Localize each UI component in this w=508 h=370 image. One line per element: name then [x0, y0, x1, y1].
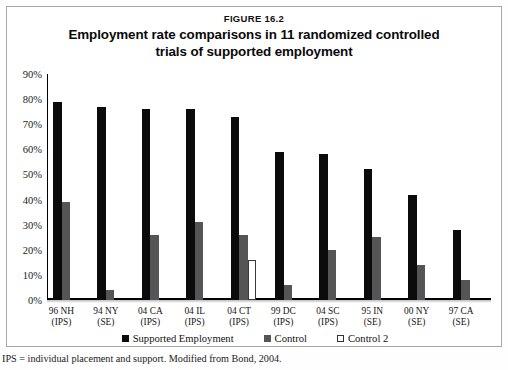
x-axis-label-line-2: (SE) [84, 317, 128, 328]
x-axis-label-line-2: (IPS) [39, 317, 83, 328]
y-tick-label: 40% [23, 194, 42, 205]
figure-number: FIGURE 16.2 [7, 13, 501, 24]
legend-swatch-ctrl [264, 335, 271, 342]
x-axis-label-line-2: (IPS) [173, 317, 217, 328]
plot-area: 90%80%70%60%50%40%30%20%10%0% [47, 74, 491, 300]
x-axis-label-line-1: 04 CT [227, 306, 251, 316]
bar-control [62, 202, 71, 300]
x-axis-label-line-1: 96 NH [49, 306, 74, 316]
y-tick-label: 50% [23, 169, 42, 180]
x-axis-label-line-2: (IPS) [217, 317, 261, 328]
chart-legend: Supported EmploymentControlControl 2 [7, 333, 503, 344]
y-tick-label: 80% [23, 94, 42, 105]
x-axis-label: 04 SC(IPS) [306, 306, 350, 328]
x-axis-label-line-2: (IPS) [261, 317, 305, 328]
x-axis-label: 04 CT(IPS) [217, 306, 261, 328]
x-axis-label-line-1: 94 NY [93, 306, 118, 316]
bar-supported-employment [275, 152, 284, 300]
x-axis-label: 95 IN(SE) [350, 306, 394, 328]
x-axis-label-line-1: 04 IL [184, 306, 205, 316]
bar-group [408, 74, 452, 300]
x-axis-label: 04 CA(IPS) [128, 306, 172, 328]
legend-item: Control [264, 333, 307, 344]
x-axis-label: 99 DC(IPS) [261, 306, 305, 328]
figure-title-line-2: trials of supported employment [7, 44, 501, 61]
bar-control [106, 290, 115, 300]
bar-control [150, 235, 159, 300]
bar-supported-employment [186, 109, 195, 300]
legend-swatch-se [122, 335, 129, 342]
x-axis-label-line-2: (SE) [395, 317, 439, 328]
bar-control-2 [248, 260, 257, 300]
bar-control [195, 222, 204, 300]
figure-title-line-1: Employment rate comparisons in 11 random… [7, 27, 501, 44]
x-axis-label-line-2: (IPS) [128, 317, 172, 328]
y-tick-label: 30% [23, 219, 42, 230]
bar-group [97, 74, 141, 300]
bar-supported-employment [319, 154, 328, 300]
legend-label: Control 2 [348, 333, 388, 344]
y-tick-label: 20% [23, 244, 42, 255]
bar-supported-employment [453, 230, 462, 300]
y-tick-label: 10% [23, 269, 42, 280]
y-tick-label: 90% [23, 69, 42, 80]
bar-group [275, 74, 319, 300]
x-axis-label-line-1: 00 NY [404, 306, 429, 316]
x-axis-label-line-2: (SE) [439, 317, 483, 328]
bar-group [142, 74, 186, 300]
figure-screenshot: FIGURE 16.2 Employment rate comparisons … [0, 0, 508, 370]
bar-group [53, 74, 97, 300]
bar-supported-employment [97, 107, 106, 300]
figure-title: Employment rate comparisons in 11 random… [7, 27, 501, 60]
x-axis-label: 97 CA(SE) [439, 306, 483, 328]
x-axis-label-line-2: (IPS) [306, 317, 350, 328]
x-axis-label-line-1: 99 DC [271, 306, 296, 316]
x-axis-label-line-1: 04 CA [138, 306, 163, 316]
legend-swatch-ctrl2 [337, 335, 344, 342]
x-axis-label-line-1: 95 IN [361, 306, 383, 316]
bar-control [461, 280, 470, 300]
legend-label: Control [275, 333, 307, 344]
bar-supported-employment [231, 117, 240, 300]
y-tick-label: 0% [28, 295, 42, 306]
x-axis-label: 00 NY(SE) [395, 306, 439, 328]
bar-control [239, 235, 248, 300]
bar-supported-employment [142, 109, 151, 300]
bar-group [364, 74, 408, 300]
bar-control [284, 285, 293, 300]
y-tick-label: 60% [23, 144, 42, 155]
bar-group [231, 74, 275, 300]
bar-group [453, 74, 497, 300]
bar-control [417, 265, 426, 300]
bar-supported-employment [408, 195, 417, 300]
y-tick-label: 70% [23, 119, 42, 130]
x-axis-label: 96 NH(IPS) [39, 306, 83, 328]
legend-item: Control 2 [337, 333, 388, 344]
x-axis-label-line-1: 04 SC [316, 306, 339, 316]
figure-frame: FIGURE 16.2 Employment rate comparisons … [6, 6, 502, 347]
bar-control [328, 250, 337, 300]
y-axis-line [47, 74, 48, 300]
x-axis-label: 04 IL(IPS) [173, 306, 217, 328]
bar-group [186, 74, 230, 300]
x-axis-label-line-1: 97 CA [449, 306, 474, 316]
bar-supported-employment [364, 169, 373, 300]
x-axis-shadow [47, 300, 491, 303]
legend-item: Supported Employment [122, 333, 234, 344]
bar-group [319, 74, 363, 300]
figure-footnote: IPS = individual placement and support. … [2, 353, 282, 364]
legend-label: Supported Employment [133, 333, 234, 344]
bar-control [372, 237, 381, 300]
x-axis-label: 94 NY(SE) [84, 306, 128, 328]
bar-supported-employment [53, 102, 62, 300]
x-axis-label-line-2: (SE) [350, 317, 394, 328]
